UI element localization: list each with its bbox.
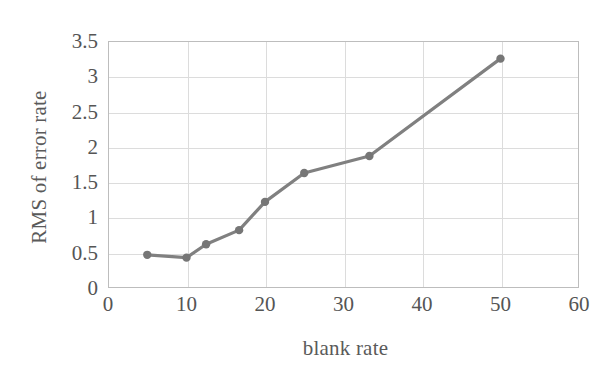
- x-axis-tick-label: 50: [471, 292, 531, 317]
- chart-container: RMS of error rate 00.511.522.533.5 01020…: [0, 0, 616, 375]
- y-axis-tick-label: 2.5: [40, 99, 98, 124]
- y-axis-tick-label: 1: [40, 205, 98, 230]
- data-point-marker: [496, 54, 504, 62]
- x-axis-tick-label: 0: [78, 292, 138, 317]
- data-point-marker: [143, 251, 151, 259]
- data-point-marker: [182, 253, 190, 261]
- x-axis-tick-label: 40: [392, 292, 452, 317]
- series-line: [147, 59, 500, 258]
- data-point-marker: [202, 240, 210, 248]
- data-point-marker: [235, 226, 243, 234]
- y-axis-tick-label: 0.5: [40, 240, 98, 265]
- y-axis-tick-label: 1.5: [40, 170, 98, 195]
- x-axis-tick-label: 60: [549, 292, 609, 317]
- y-axis-tick-label: 3: [40, 64, 98, 89]
- data-series-layer: [108, 41, 579, 288]
- y-axis-tick-label: 2: [40, 134, 98, 159]
- series-markers: [143, 54, 505, 261]
- y-axis-tick-label: 3.5: [40, 29, 98, 54]
- data-point-marker: [365, 152, 373, 160]
- x-axis-tick-label: 10: [157, 292, 217, 317]
- x-axis-tick-label: 30: [314, 292, 374, 317]
- data-point-marker: [261, 198, 269, 206]
- x-axis-title: blank rate: [108, 336, 583, 361]
- x-axis-tick-label: 20: [235, 292, 295, 317]
- data-point-marker: [300, 169, 308, 177]
- x-axis-tick-labels: 0102030405060: [0, 292, 616, 322]
